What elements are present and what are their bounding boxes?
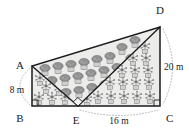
measure-label-ab: 8 m — [10, 85, 25, 95]
dotted-guide-EC — [80, 110, 158, 116]
geometry-diagram: A B E C D 8 m 16 m 20 m — [0, 0, 189, 132]
geometry-figure-container: A B E C D 8 m 16 m 20 m — [0, 0, 189, 132]
vertex-label-D: D — [156, 4, 164, 16]
vertex-label-A: A — [16, 59, 24, 71]
vertex-label-E: E — [73, 114, 80, 126]
measure-label-ec: 16 m — [109, 116, 129, 126]
vertex-label-C: C — [166, 112, 173, 124]
measure-label-dc: 20 m — [164, 62, 184, 72]
vertex-label-B: B — [16, 112, 23, 124]
